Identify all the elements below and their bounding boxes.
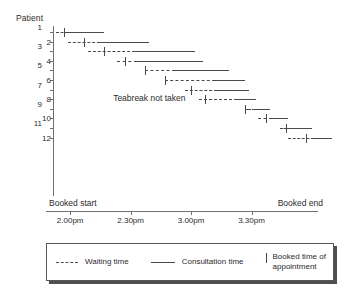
booked-time-marker — [165, 76, 166, 85]
waiting-time-segment — [185, 90, 217, 91]
booked-time-marker — [104, 47, 105, 56]
waiting-time-segment — [165, 80, 215, 81]
x-axis-ticks: 2.00pm2.30pm3.00pm3.30pm — [0, 211, 356, 231]
teabreak-annotation: Teabreak not taken — [113, 93, 185, 103]
y-axis-label: 11 — [22, 119, 42, 128]
x-axis-tick — [131, 211, 132, 215]
waiting-time-segment — [88, 51, 134, 52]
consultation-time-segment — [215, 80, 245, 81]
waiting-time-segment — [56, 32, 68, 33]
consultation-time-segment — [237, 99, 255, 100]
x-axis-label: 3.00pm — [178, 216, 205, 225]
legend-label: Booked time of appointment — [273, 252, 351, 272]
waiting-time-segment — [145, 70, 175, 71]
booked-time-marker — [245, 105, 246, 114]
y-axis-label: 3 — [22, 42, 42, 51]
y-axis-tick — [50, 90, 54, 91]
y-axis-label: 9 — [22, 100, 42, 109]
legend-label: Consultation time — [182, 257, 244, 267]
x-axis-label: 2.30pm — [117, 216, 144, 225]
y-axis-title: Patient — [16, 13, 43, 23]
x-axis-label: 2.00pm — [57, 216, 84, 225]
legend-item: Waiting time — [56, 257, 129, 267]
consultation-time-segment — [290, 128, 312, 129]
consultation-time-segment — [272, 118, 288, 119]
booked-time-marker — [205, 95, 206, 104]
y-axis-tick — [50, 128, 54, 129]
waiting-time-segment — [288, 138, 314, 139]
booked-time-marker — [84, 38, 85, 47]
y-axis-tick — [50, 51, 54, 52]
legend-swatch-dashed — [56, 262, 78, 263]
y-axis-label: 7 — [22, 81, 42, 90]
legend-swatch-tick — [266, 253, 267, 263]
consultation-time-segment — [100, 42, 148, 43]
consultation-time-segment — [175, 70, 229, 71]
legend-items: Waiting timeConsultation timeBooked time… — [47, 244, 333, 280]
legend-item: Consultation time — [151, 257, 244, 267]
booked-start-label: Booked start — [49, 198, 97, 208]
x-axis-label: 3.30pm — [238, 216, 265, 225]
x-axis-tick — [70, 211, 71, 215]
consultation-time-segment — [252, 109, 270, 110]
waiting-time-segment — [280, 128, 290, 129]
consultation-time-segment — [68, 32, 104, 33]
y-axis-label: 5 — [22, 61, 42, 70]
booked-time-marker — [266, 114, 267, 123]
consultation-time-segment — [314, 138, 332, 139]
consultation-time-segment — [137, 61, 203, 62]
booked-time-marker — [286, 124, 287, 133]
chart-canvas: Patient 123456789101112 Teabreak not tak… — [0, 0, 356, 293]
consultation-time-segment — [217, 90, 249, 91]
booked-time-marker — [64, 28, 65, 37]
consultation-time-segment — [135, 51, 195, 52]
legend-box: Waiting timeConsultation timeBooked time… — [46, 243, 334, 281]
booked-end-label: Booked end — [278, 198, 323, 208]
legend-item: Booked time of appointment — [266, 252, 351, 272]
waiting-time-segment — [117, 61, 137, 62]
plot-area: 123456789101112 Teabreak not taken — [54, 26, 318, 196]
y-axis-label: 1 — [22, 23, 42, 32]
waiting-time-segment — [258, 118, 272, 119]
x-axis-tick — [191, 211, 192, 215]
y-axis-tick — [50, 70, 54, 71]
booked-time-marker — [306, 134, 307, 143]
y-axis-label: 12 — [31, 134, 51, 143]
booked-time-marker — [145, 66, 146, 75]
x-axis-tick — [252, 211, 253, 215]
booked-time-marker — [125, 57, 126, 66]
legend-label: Waiting time — [85, 257, 129, 267]
y-axis-tick — [50, 109, 54, 110]
y-axis-tick — [50, 32, 54, 33]
booked-time-marker — [191, 86, 192, 95]
legend-swatch-solid — [151, 262, 175, 263]
